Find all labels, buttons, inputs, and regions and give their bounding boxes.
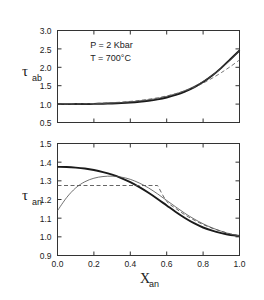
tau-ab-symbol: τ — [22, 63, 28, 79]
plot-annotation: P = 2 Kbar — [90, 40, 133, 50]
y-tick-label: 2.5 — [40, 45, 52, 55]
tau-ab-subscript: ab — [32, 73, 42, 83]
plot-annotation: T = 700°C — [90, 53, 131, 63]
tau-an-subscript: an — [32, 197, 42, 207]
y-tick-label: 1.4 — [40, 158, 52, 168]
y-tick-label: 0.5 — [40, 118, 52, 128]
x-tick-label: 1.0 — [234, 259, 246, 269]
y-tick-label: 1.0 — [40, 100, 52, 110]
y-tick-label: 1.1 — [40, 214, 52, 224]
y-tick-label: 3.0 — [40, 26, 52, 36]
tau-an-symbol: τ — [22, 187, 28, 203]
y-tick-label: 1.3 — [40, 176, 52, 186]
y-tick-label: 2.0 — [40, 63, 52, 73]
y-tick-label: 1.0 — [40, 232, 52, 242]
x-tick-label: 0.0 — [52, 259, 64, 269]
x-tick-label: 0.8 — [197, 259, 209, 269]
x-an-subscript: an — [149, 279, 159, 289]
x-tick-label: 0.6 — [161, 259, 173, 269]
y-tick-label: 0.9 — [40, 251, 52, 261]
figure-panel-pair: 0.51.01.52.02.53.0 P = 2 KbarT = 700°C τ… — [0, 0, 264, 300]
x-tick-label: 0.4 — [124, 259, 136, 269]
y-tick-label: 1.5 — [40, 139, 52, 149]
x-tick-label: 0.2 — [88, 259, 100, 269]
